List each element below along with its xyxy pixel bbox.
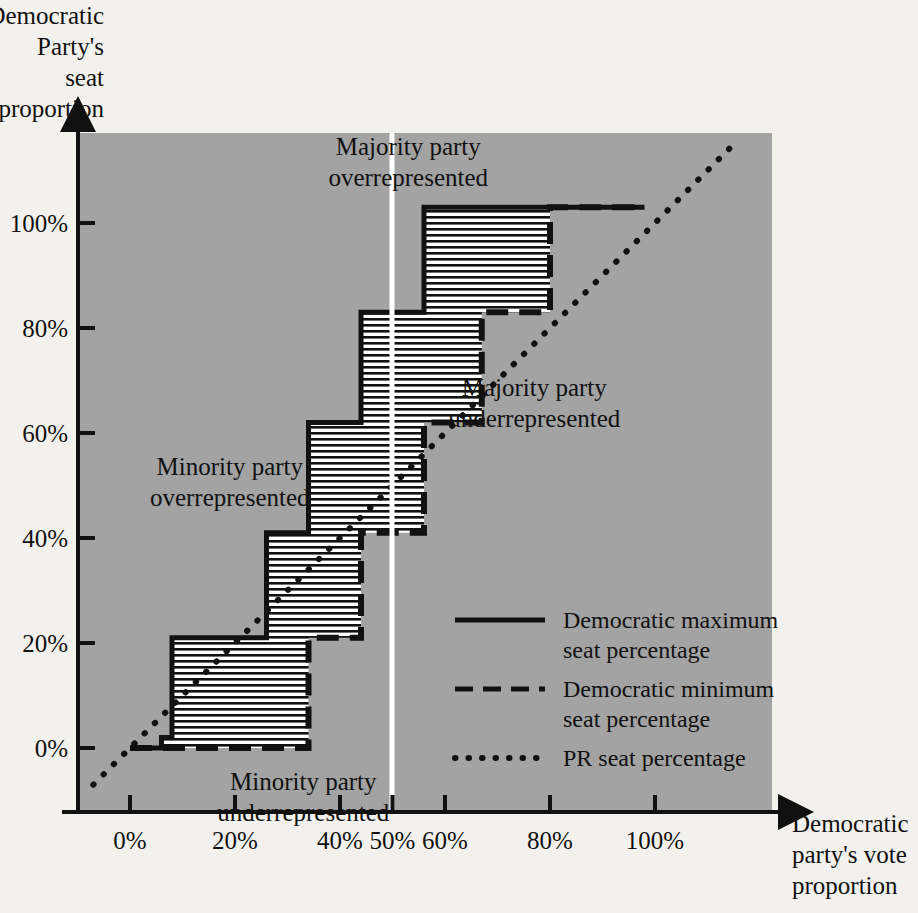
annotation-majority-underrepresented: Majority party: [462, 374, 608, 401]
y-tick-label: 100%: [10, 210, 68, 237]
legend-label-dem-min: seat percentage: [563, 706, 710, 732]
annotation-minority-overrepresented: overrepresented: [150, 484, 310, 511]
annotation-majority-underrepresented: underrepresented: [448, 405, 621, 432]
y-axis-title-line: proportion: [0, 95, 104, 122]
y-axis-title-line: Party's: [37, 33, 104, 60]
x-axis-title: Democraticparty's voteproportion: [792, 810, 909, 899]
y-tick-label: 20%: [22, 630, 68, 657]
legend-label-dem-max: Democratic maximum: [563, 607, 779, 633]
annotation-majority-overrepresented: Majority party: [336, 133, 482, 160]
x-tick-label: 0%: [113, 827, 146, 854]
x-tick-label: 50%: [370, 827, 416, 854]
legend-label-pr: PR seat percentage: [563, 745, 746, 771]
y-axis-title-line: seat: [65, 64, 104, 91]
x-axis-title-line: party's vote: [792, 841, 907, 868]
x-tick-label: 60%: [422, 827, 468, 854]
x-tick-label: 100%: [626, 827, 684, 854]
y-tick-label: 40%: [22, 525, 68, 552]
y-tick-label: 60%: [22, 420, 68, 447]
y-tick-label: 0%: [35, 735, 68, 762]
annotation-majority-overrepresented: overrepresented: [328, 164, 488, 191]
x-axis-title-line: proportion: [792, 872, 898, 899]
x-tick-label: 20%: [212, 827, 258, 854]
seats-votes-chart: 0%20%40%60%80%100% 0%20%40%50%60%80%100%…: [0, 0, 918, 913]
annotation-minority-underrepresented: Minority party: [230, 768, 377, 795]
annotation-minority-underrepresented: underrepresented: [217, 799, 390, 826]
legend-label-dem-max: seat percentage: [563, 637, 710, 663]
y-tick-label: 80%: [22, 315, 68, 342]
y-axis-title-line: Democratic: [0, 2, 104, 29]
legend-label-dem-min: Democratic minimum: [563, 676, 775, 702]
x-axis-title-line: Democratic: [792, 810, 909, 837]
x-tick-label: 40%: [317, 827, 363, 854]
annotation-minority-overrepresented: Minority party: [156, 453, 303, 480]
x-tick-label: 80%: [527, 827, 573, 854]
